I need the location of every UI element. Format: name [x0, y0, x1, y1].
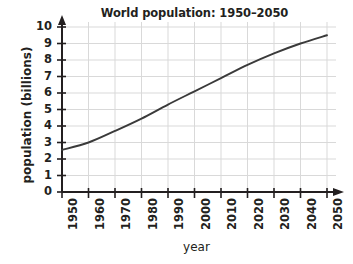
x-tick-label: 2010 [227, 198, 239, 238]
x-tick-label: 1960 [95, 198, 107, 238]
x-axis-title: year [0, 240, 353, 254]
x-tick-label: 1990 [174, 198, 186, 238]
x-tick-label: 1980 [148, 198, 160, 238]
x-tick-label: 2020 [254, 198, 266, 238]
y-axis-title: population (billions) [20, 40, 34, 190]
x-tick-label: 2030 [280, 198, 292, 238]
x-tick-label: 2050 [333, 198, 345, 238]
chart-figure: World population: 1950–2050 012345678910… [0, 0, 353, 264]
x-tick-label: 1950 [68, 198, 80, 238]
x-axis-tick-labels: 1950196019701980199020002010202020302040… [0, 0, 353, 264]
x-tick-label: 2040 [307, 198, 319, 238]
x-tick-label: 1970 [121, 198, 133, 238]
x-tick-label: 2000 [201, 198, 213, 238]
